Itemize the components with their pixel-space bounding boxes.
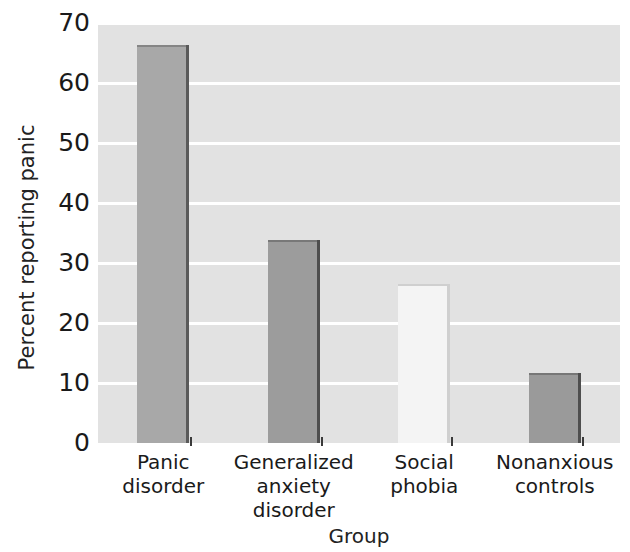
x-tick-mark [321,437,323,446]
x-tick-mark [451,437,453,446]
y-axis-title: Percent reporting panic [12,25,42,470]
x-category-label-line: disorder [98,474,229,498]
x-axis-category-labels: PanicdisorderGeneralizedanxietydisorderS… [98,450,620,522]
bar [268,240,320,443]
y-tick-label: 30 [44,250,90,275]
x-category-label-line: Social [359,450,490,474]
x-axis-tick-marks [98,437,620,446]
x-category-label-line: anxiety [229,474,360,498]
y-axis-tick-labels: 010203040506070 [44,0,90,552]
bar-face [137,45,189,443]
x-category-label-line: Panic [98,450,229,474]
x-category-label-line: phobia [359,474,490,498]
x-category-label-line: disorder [229,498,360,522]
x-category-label-line: controls [490,474,621,498]
bar [137,45,189,443]
x-category-label-line: Nonanxious [490,450,621,474]
y-tick-label: 70 [44,10,90,35]
plot-area [98,23,620,443]
bar [398,284,450,443]
y-tick-label: 60 [44,70,90,95]
bar-chart-figure: Percent reporting panic 010203040506070 … [0,0,630,552]
x-category-label: Nonanxiouscontrols [490,450,621,498]
y-tick-label: 0 [44,430,90,455]
bar-top-edge [398,284,450,286]
x-tick-mark [582,437,584,446]
x-category-label: Panicdisorder [98,450,229,498]
gridline [98,23,620,25]
bar-face [268,240,320,443]
bar-right-edge [317,240,320,443]
bar-face [398,284,450,443]
bar-top-edge [529,373,581,375]
y-tick-label: 40 [44,190,90,215]
bar [529,373,581,443]
bar-face [529,373,581,443]
bar-right-edge [447,284,450,443]
bar-top-edge [268,240,320,242]
x-axis-title: Group [98,524,620,548]
y-tick-label: 10 [44,370,90,395]
y-tick-label: 20 [44,310,90,335]
x-tick-mark [190,437,192,446]
y-tick-label: 50 [44,130,90,155]
x-category-label-line: Generalized [229,450,360,474]
x-category-label: Generalizedanxietydisorder [229,450,360,522]
bar-right-edge [186,45,189,443]
bar-right-edge [578,373,581,443]
bar-top-edge [137,45,189,47]
x-category-label: Socialphobia [359,450,490,498]
